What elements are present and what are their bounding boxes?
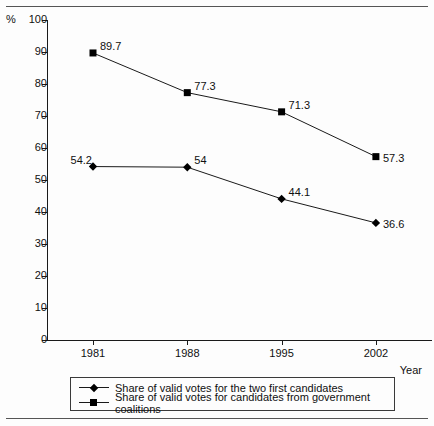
data-point-label: 54.2 xyxy=(0,155,92,166)
diamond-data-marker xyxy=(277,195,285,203)
data-point-label: 44.1 xyxy=(289,187,310,198)
square-data-marker xyxy=(372,153,379,160)
diamond-data-marker xyxy=(372,219,380,227)
legend-item-government-coalitions: Share of valid votes for candidates from… xyxy=(79,396,394,410)
diamond-marker-icon xyxy=(79,382,109,394)
series-lines xyxy=(0,0,434,426)
chart-legend: Share of valid votes for the two first c… xyxy=(70,377,395,411)
series-line xyxy=(93,167,376,223)
data-point-label: 77.3 xyxy=(194,81,215,92)
data-point-label: 36.6 xyxy=(383,219,404,230)
square-marker-icon xyxy=(79,397,109,409)
data-point-label: 89.7 xyxy=(100,41,121,52)
square-data-marker xyxy=(184,89,191,96)
diamond-data-marker xyxy=(183,163,191,171)
series-line xyxy=(93,53,376,157)
square-data-marker xyxy=(278,108,285,115)
square-data-marker xyxy=(90,49,97,56)
data-point-label: 54 xyxy=(194,155,206,166)
data-point-label: 71.3 xyxy=(289,100,310,111)
chart-figure: % 1009080706050403020100 198119881995200… xyxy=(0,0,434,426)
legend-item-label: Share of valid votes for candidates from… xyxy=(109,391,394,415)
data-point-label: 57.3 xyxy=(383,153,404,164)
